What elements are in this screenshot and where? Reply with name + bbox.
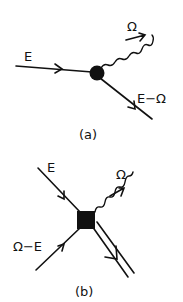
label-omega: Ω xyxy=(116,167,126,182)
incoming-line-e xyxy=(38,168,80,212)
vertex-square-icon xyxy=(77,211,95,229)
label-omega: Ω xyxy=(127,19,137,34)
double-line-upper xyxy=(92,226,128,277)
momentum-arrow-icon xyxy=(126,33,145,41)
label-e-minus-omega: E−Ω xyxy=(137,91,166,106)
label-e: E xyxy=(47,160,55,175)
panel-b: E Ω−E Ω (b) xyxy=(13,160,134,299)
caption-b: (b) xyxy=(75,284,93,299)
panel-a: E E−Ω Ω (a) xyxy=(16,19,166,142)
momentum-arrow-icon xyxy=(110,188,124,196)
label-omega-minus-e: Ω−E xyxy=(13,239,42,254)
incoming-line-e xyxy=(16,66,92,72)
caption-a: (a) xyxy=(79,127,97,142)
feynman-diagrams: E E−Ω Ω (a) E Ω−E Ω (b) xyxy=(0,0,183,302)
label-e: E xyxy=(24,49,32,64)
vertex-dot-icon xyxy=(90,66,105,81)
photon-wavy-line xyxy=(95,172,133,212)
incoming-line-omega-minus-e xyxy=(36,228,80,270)
